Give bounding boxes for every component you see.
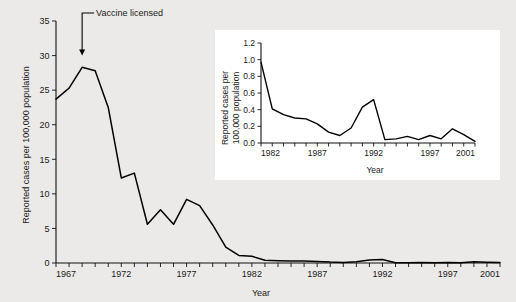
- inset-y-tick-group: 0.00.20.40.60.81.01.2: [243, 38, 261, 148]
- inset-y-tick-label: 0.4: [243, 105, 255, 115]
- main-y-tick-label: 5: [44, 224, 49, 234]
- figure-container: Reported cases per 100,000 population 05…: [0, 0, 516, 302]
- main-x-tick-group: 19671972197719821987199219972001: [56, 263, 500, 279]
- main-x-tick-label: 1977: [177, 269, 197, 279]
- inset-x-tick-label: 1992: [364, 148, 383, 158]
- main-y-tick-label: 35: [39, 16, 49, 26]
- inset-y-tick-label: 0.0: [243, 138, 255, 148]
- inset-y-tick-label: 0.8: [243, 71, 255, 81]
- main-x-tick-label: 1987: [307, 269, 327, 279]
- inset-y-axis-label-line1: Reported cases per: [220, 71, 230, 145]
- inset-x-tick-label: 1997: [420, 148, 439, 158]
- main-y-tick-label: 0: [44, 258, 49, 268]
- inset-y-tick-label: 0.6: [243, 88, 255, 98]
- main-y-tick-label: 10: [39, 189, 49, 199]
- inset-x-tick-label: 1982: [261, 148, 280, 158]
- inset-x-tick-label: 1987: [308, 148, 327, 158]
- inset-y-axis-label-line2: 100,000 population: [231, 72, 241, 145]
- main-x-tick-label: 1967: [56, 269, 76, 279]
- main-x-tick-label: 2001: [480, 269, 500, 279]
- main-y-tick-group: 05101520253035: [39, 16, 56, 268]
- inset-x-tick-group: 19821987199219972001: [261, 143, 475, 158]
- main-y-tick-label: 20: [39, 120, 49, 130]
- inset-y-tick-label: 1.2: [243, 38, 255, 48]
- inset-y-tick-label: 0.2: [243, 121, 255, 131]
- main-y-tick-label: 30: [39, 51, 49, 61]
- annotation-leader-line: [82, 13, 94, 51]
- main-x-tick-label: 1972: [111, 269, 131, 279]
- main-y-tick-label: 15: [39, 155, 49, 165]
- main-y-tick-label: 25: [39, 85, 49, 95]
- main-x-tick-label: 1992: [372, 269, 392, 279]
- main-x-tick-label: 1997: [438, 269, 458, 279]
- annotation-label: Vaccine licensed: [96, 8, 163, 18]
- vaccine-licensed-annotation: Vaccine licensed: [79, 8, 163, 55]
- main-y-axis-label: Reported cases per 100,000 population: [21, 66, 31, 224]
- inset-x-axis-label: Year: [366, 165, 383, 175]
- main-x-tick-label: 1982: [242, 269, 262, 279]
- inset-y-tick-label: 1.0: [243, 55, 255, 65]
- inset-data-line: [261, 62, 475, 141]
- inset-x-tick-label: 2001: [456, 148, 475, 158]
- inset-chart: Reported cases per 100,000 population 0.…: [215, 30, 500, 180]
- main-x-axis-label: Year: [252, 288, 270, 298]
- annotation-arrow-icon: [79, 50, 85, 56]
- inset-panel: Reported cases per 100,000 population 0.…: [215, 30, 500, 180]
